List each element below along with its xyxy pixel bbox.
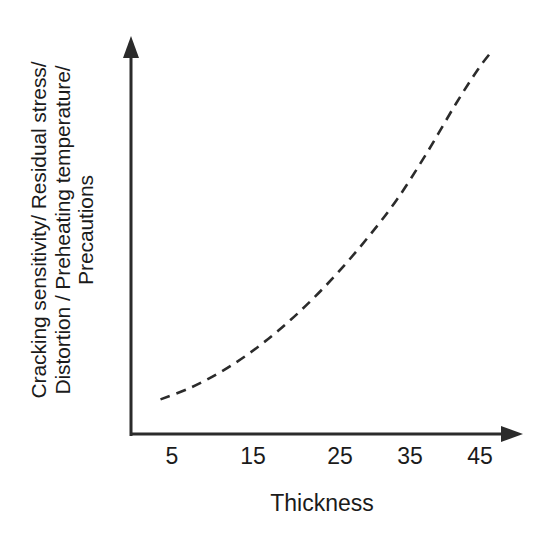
y-axis-arrowhead-icon (123, 36, 139, 58)
x-tick-label-35: 35 (397, 443, 423, 470)
y-axis (123, 36, 139, 436)
x-tick-label-5: 5 (166, 443, 179, 470)
x-tick-label-25: 25 (327, 443, 353, 470)
x-axis-arrowhead-icon (501, 426, 523, 442)
x-axis (130, 426, 523, 442)
chart-figure: Cracking sensitivity/ Residual stress/ D… (0, 0, 556, 537)
x-axis-label: Thickness (270, 490, 374, 517)
data-series-curve (161, 50, 493, 399)
x-tick-label-15: 15 (240, 443, 266, 470)
x-tick-label-45: 45 (467, 443, 493, 470)
